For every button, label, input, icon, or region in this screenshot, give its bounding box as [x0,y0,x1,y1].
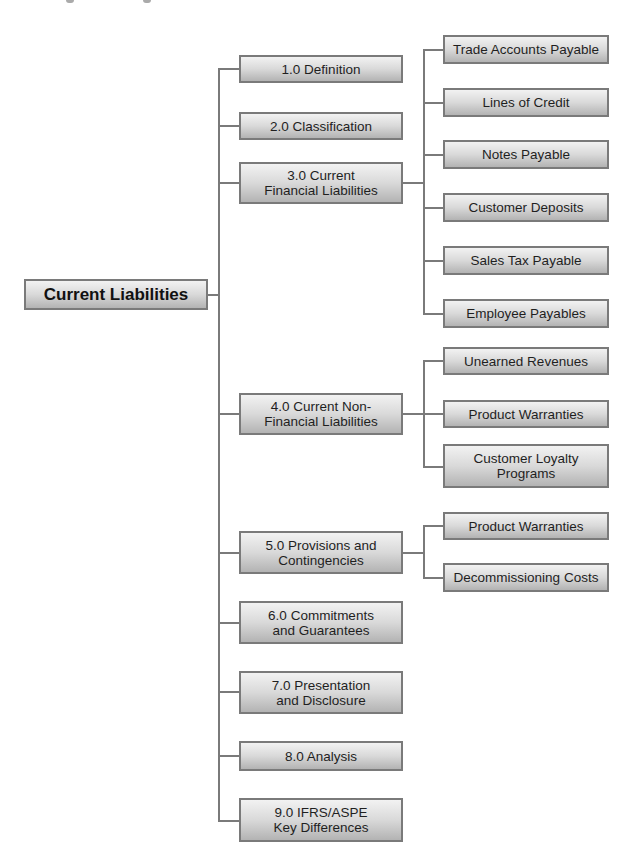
section-label: 6.0 Commitmentsand Guarantees [268,608,374,638]
connector [423,260,444,262]
connector-branch [423,49,425,313]
section-label: 7.0 Presentationand Disclosure [272,678,370,708]
subtopic-label: Product Warranties [468,519,583,534]
connector [423,102,444,104]
subtopic-label: Decommissioning Costs [454,570,599,585]
top-edge-fragment [143,0,151,3]
section-9-ifrs-aspe-key-differences: 9.0 IFRS/ASPEKey Differences [239,798,403,842]
section-3-current-financial-liabilities: 3.0 CurrentFinancial Liabilities [239,162,403,204]
root-label: Current Liabilities [44,287,189,302]
top-edge-fragment [66,0,74,3]
connector [218,691,239,693]
connector [218,125,239,127]
section-4-current-non-financial-liabilities: 4.0 Current Non-Financial Liabilities [239,393,403,435]
connector [218,68,239,70]
connector [403,552,424,554]
subtopic-label: Trade Accounts Payable [453,42,599,57]
section-6-commitments-and-guarantees: 6.0 Commitmentsand Guarantees [239,601,403,644]
section-label: 5.0 Provisions andContingencies [265,538,376,568]
section-8-analysis: 8.0 Analysis [239,741,403,771]
connector [423,413,444,415]
connector [423,466,444,468]
subtopic-customer-deposits: Customer Deposits [443,193,609,222]
connector [218,182,239,184]
section-label: 9.0 IFRS/ASPEKey Differences [273,805,368,835]
section-label: 4.0 Current Non-Financial Liabilities [264,399,377,429]
subtopic-unearned-revenues: Unearned Revenues [443,347,609,375]
connector-branch [423,525,425,579]
section-2-classification: 2.0 Classification [239,112,403,140]
subtopic-sales-tax-payable: Sales Tax Payable [443,246,609,275]
connector [423,577,444,579]
root-node-current-liabilities: Current Liabilities [24,279,208,310]
subtopic-label: Employee Payables [466,306,585,321]
connector [218,413,239,415]
section-label: 3.0 CurrentFinancial Liabilities [264,168,377,198]
connector [423,154,444,156]
section-label: 1.0 Definition [282,62,361,77]
section-1-definition: 1.0 Definition [239,55,403,83]
subtopic-label: Sales Tax Payable [471,253,582,268]
connector [218,622,239,624]
subtopic-lines-of-credit: Lines of Credit [443,88,609,117]
subtopic-label: Customer Deposits [469,200,584,215]
subtopic-label: Customer LoyaltyPrograms [473,451,578,481]
connector [423,207,444,209]
connector [423,313,444,315]
subtopic-customer-loyalty-programs: Customer LoyaltyPrograms [443,444,609,488]
section-5-provisions-and-contingencies: 5.0 Provisions andContingencies [239,531,403,574]
section-7-presentation-and-disclosure: 7.0 Presentationand Disclosure [239,671,403,714]
subtopic-product-warranties: Product Warranties [443,400,609,428]
subtopic-label: Lines of Credit [482,95,569,110]
connector [423,360,444,362]
subtopic-notes-payable: Notes Payable [443,140,609,169]
connector [218,820,239,822]
subtopic-trade-accounts-payable: Trade Accounts Payable [443,35,609,64]
subtopic-product-warranties-provision: Product Warranties [443,512,609,540]
connector [423,525,444,527]
connector [423,49,444,51]
subtopic-label: Unearned Revenues [464,354,588,369]
section-label: 8.0 Analysis [285,749,357,764]
subtopic-decommissioning-costs: Decommissioning Costs [443,563,609,592]
connector [218,552,239,554]
subtopic-employee-payables: Employee Payables [443,299,609,328]
subtopic-label: Notes Payable [482,147,570,162]
section-label: 2.0 Classification [270,119,372,134]
connector [218,755,239,757]
connector [403,182,424,184]
subtopic-label: Product Warranties [468,407,583,422]
connector [403,413,424,415]
